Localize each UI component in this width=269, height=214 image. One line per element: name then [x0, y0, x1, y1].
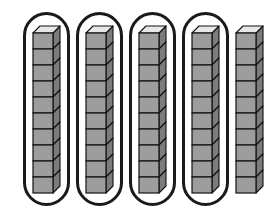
unit-cube-rod	[86, 26, 113, 186]
unit-cube	[86, 154, 113, 170]
unit-cube	[236, 74, 263, 90]
unit-cube	[33, 170, 60, 186]
unit-cube	[86, 138, 113, 154]
unit-cube	[33, 122, 60, 138]
unit-cube	[33, 58, 60, 74]
unit-cube	[236, 106, 263, 122]
base-ten-diagram: Five vertical rods of ten stacked unit c…	[0, 0, 269, 214]
unit-cube	[86, 90, 113, 106]
unit-cube	[236, 122, 263, 138]
unit-cube	[192, 42, 219, 58]
unit-cube	[86, 122, 113, 138]
unit-cube	[236, 26, 263, 42]
unit-cube-rod	[192, 26, 219, 186]
unit-cube	[192, 122, 219, 138]
unit-cube-rod	[236, 26, 263, 186]
unit-cube	[139, 58, 166, 74]
unit-cube	[236, 170, 263, 186]
unit-cube	[86, 106, 113, 122]
unit-cube	[139, 154, 166, 170]
unit-cube	[192, 106, 219, 122]
unit-cube	[192, 138, 219, 154]
unit-cube	[139, 106, 166, 122]
unit-cube	[86, 170, 113, 186]
unit-cube	[139, 26, 166, 42]
unit-cube	[192, 58, 219, 74]
unit-cube	[236, 138, 263, 154]
unit-cube	[86, 74, 113, 90]
unit-cube	[33, 74, 60, 90]
unit-cube	[236, 58, 263, 74]
unit-cube	[33, 154, 60, 170]
unit-cube	[139, 90, 166, 106]
unit-cube	[139, 42, 166, 58]
unit-cube	[139, 122, 166, 138]
unit-cube	[33, 90, 60, 106]
unit-cube-rod	[139, 26, 166, 186]
unit-cube	[86, 26, 113, 42]
unit-cube	[192, 74, 219, 90]
unit-cube	[192, 90, 219, 106]
unit-cube	[192, 26, 219, 42]
unit-cube	[139, 138, 166, 154]
unit-cube	[192, 154, 219, 170]
unit-cube	[192, 170, 219, 186]
unit-cube	[86, 42, 113, 58]
unit-cube	[236, 42, 263, 58]
unit-cube	[33, 42, 60, 58]
unit-cube	[33, 138, 60, 154]
unit-cube-rod	[33, 26, 60, 186]
unit-cube	[236, 90, 263, 106]
unit-cube	[236, 154, 263, 170]
unit-cube	[33, 26, 60, 42]
unit-cube	[139, 170, 166, 186]
unit-cube	[33, 106, 60, 122]
unit-cube	[139, 74, 166, 90]
unit-cube	[86, 58, 113, 74]
